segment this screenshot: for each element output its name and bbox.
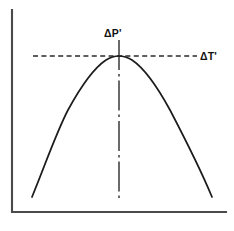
peak-vertical-label: ΔP' (104, 27, 122, 39)
tangent-horizontal-label: ΔT' (200, 50, 217, 62)
dome-curve (32, 56, 212, 197)
figure-container: ΔP' ΔT' (0, 0, 234, 231)
